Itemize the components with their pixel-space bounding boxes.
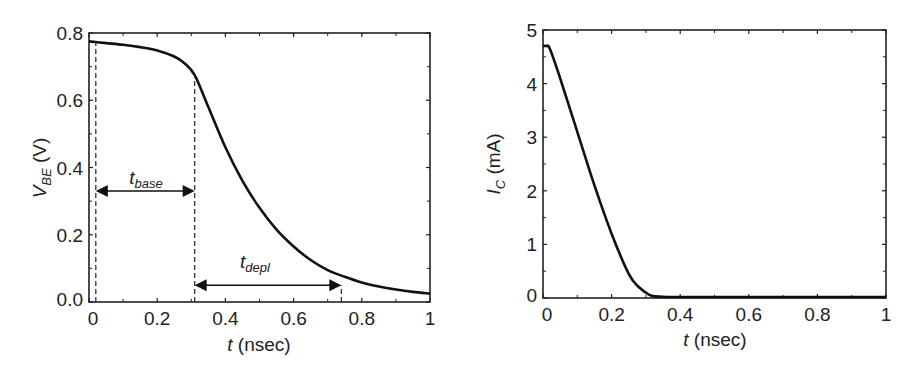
x-tick-label: 0.2 xyxy=(598,304,624,325)
arrowhead-left-icon xyxy=(195,279,207,291)
x-tick-label: 0 xyxy=(88,308,99,329)
y-tick-label: 0.6 xyxy=(57,90,83,111)
x-tick-label: 0.6 xyxy=(280,308,306,329)
ic-x-axis-label: t (nsec) xyxy=(683,329,746,350)
ic-y-axis-label: IC (mA) xyxy=(483,133,508,194)
x-tick-label: 0.4 xyxy=(667,304,694,325)
y-tick-label: 0 xyxy=(526,285,537,306)
tbase-annotation: tbase xyxy=(129,167,162,191)
y-tick-label: 0.8 xyxy=(57,23,83,44)
x-tick-label: 0 xyxy=(542,304,553,325)
x-tick-label: 1 xyxy=(425,308,436,329)
vbe-plot: 00.20.40.60.810.00.20.40.60.8 xyxy=(57,23,436,329)
y-tick-label: 0.2 xyxy=(57,225,83,246)
y-tick-label: 4 xyxy=(526,74,537,95)
y-tick-label: 5 xyxy=(526,20,537,41)
x-tick-label: 0.4 xyxy=(212,308,239,329)
y-tick-label: 0.0 xyxy=(57,289,83,310)
y-tick-label: 2 xyxy=(526,181,537,202)
y-tick-label: 0.4 xyxy=(57,158,84,179)
arrowhead-right-icon xyxy=(329,279,341,291)
y-tick-label: 1 xyxy=(526,234,537,255)
x-tick-label: 0.2 xyxy=(144,308,170,329)
data-line xyxy=(543,46,886,297)
x-tick-label: 0.6 xyxy=(736,304,762,325)
x-tick-label: 1 xyxy=(881,304,892,325)
x-tick-label: 0.8 xyxy=(804,304,830,325)
vbe-y-axis-label: VBE (V) xyxy=(29,138,54,199)
data-line xyxy=(89,41,430,293)
y-tick-label: 3 xyxy=(526,127,537,148)
figure: 00.20.40.60.810.00.20.40.60.8 00.20.40.6… xyxy=(0,0,901,377)
arrowhead-right-icon xyxy=(183,185,195,197)
x-tick-label: 0.8 xyxy=(349,308,375,329)
plot-frame xyxy=(543,30,886,298)
arrowhead-left-icon xyxy=(96,185,108,197)
tdepl-annotation: tdepl xyxy=(240,251,271,275)
ic-plot: 00.20.40.60.81012345 xyxy=(526,20,891,325)
vbe-x-axis-label: t (nsec) xyxy=(227,334,290,355)
